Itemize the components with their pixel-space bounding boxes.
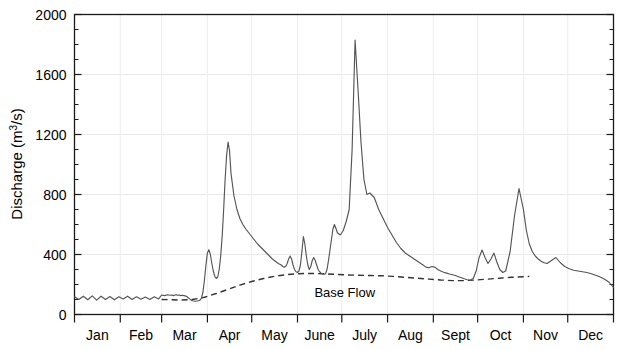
x-tick-label-mar: Mar	[172, 327, 196, 343]
y-tick-label: 2000	[35, 7, 66, 23]
y-tick-label: 0	[59, 307, 67, 323]
x-tick-label-sept: Sept	[441, 327, 470, 343]
x-tick-label-aug: Aug	[398, 327, 423, 343]
x-tick-label-july: July	[352, 327, 377, 343]
y-tick-label: 400	[43, 247, 67, 263]
y-tick-label: 800	[43, 187, 67, 203]
x-tick-label-oct: Oct	[490, 327, 512, 343]
hydrograph-figure: 0400800120016002000 JanFebMarAprMayJuneJ…	[0, 0, 642, 350]
y-tick-label: 1200	[35, 127, 66, 143]
y-tick-label: 1600	[35, 67, 66, 83]
x-tick-label-dec: Dec	[578, 327, 603, 343]
base-flow-label: Base Flow	[314, 285, 375, 300]
chart-annotations: Base Flow	[314, 285, 375, 300]
x-tick-label-nov: Nov	[533, 327, 558, 343]
x-tick-label-feb: Feb	[129, 327, 153, 343]
y-axis-title: Discharge (m3/s)	[8, 108, 26, 219]
discharge-hydrograph-chart: 0400800120016002000 JanFebMarAprMayJuneJ…	[0, 0, 642, 350]
x-tick-label-jan: Jan	[86, 327, 109, 343]
x-tick-label-apr: Apr	[219, 327, 241, 343]
x-tick-label-june: June	[304, 327, 335, 343]
x-tick-label-may: May	[261, 327, 287, 343]
